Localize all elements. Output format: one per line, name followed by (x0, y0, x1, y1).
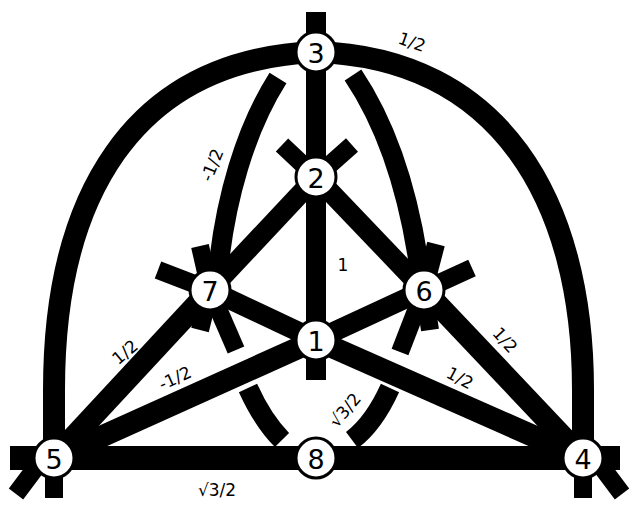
node-1: 1 (296, 320, 336, 360)
node-5: 5 (34, 438, 74, 478)
edge-7-8-inner-arc (248, 388, 282, 440)
node-label: 7 (201, 276, 218, 307)
node-label: 6 (415, 276, 432, 307)
node-label: 2 (307, 163, 324, 194)
graph-diagram: 12345678 1/2-1/211/2-1/21/21/2√3/2√3/2 (0, 0, 636, 513)
node-4: 4 (563, 438, 603, 478)
edge-weight-label: √3/2 (198, 480, 236, 500)
node-2: 2 (296, 157, 336, 197)
node-label: 3 (307, 38, 324, 69)
node-label: 5 (45, 444, 62, 475)
edge-weight-label: -1/2 (196, 146, 227, 185)
node-label: 8 (307, 444, 324, 475)
node-3: 3 (296, 32, 336, 72)
edge-weight-label: 1/2 (396, 28, 429, 56)
edge-weight-label: 1 (338, 255, 349, 275)
node-label: 4 (574, 444, 591, 475)
node-8: 8 (296, 438, 336, 478)
node-label: 1 (307, 326, 324, 357)
node-6: 6 (404, 270, 444, 310)
node-7: 7 (190, 270, 230, 310)
